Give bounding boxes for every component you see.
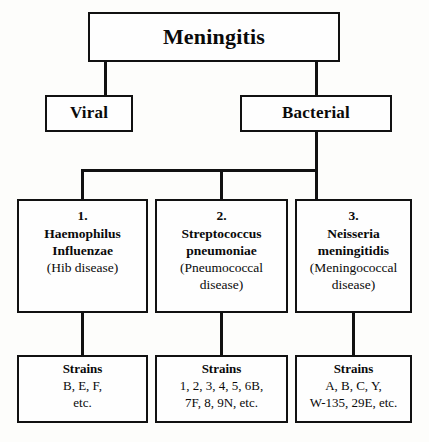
pathogen-3-disease-line1: (Meningococcal bbox=[300, 259, 407, 276]
node-bacterial-label: Bacterial bbox=[242, 103, 390, 123]
pathogen-1-genus: Haemophilus bbox=[22, 225, 143, 242]
node-strains-2: Strains 1, 2, 3, 4, 5, 6B, 7F, 8, 9N, et… bbox=[155, 355, 288, 423]
connector-bacterial-bus bbox=[81, 169, 318, 172]
pathogen-2-species: pneumoniae bbox=[160, 242, 283, 259]
pathogen-1-number: 1. bbox=[22, 207, 143, 224]
pathogen-2-disease-line2: disease) bbox=[160, 276, 283, 293]
pathogen-3-disease-line2: disease) bbox=[300, 276, 407, 293]
connector-bus-to-pathogen-2 bbox=[220, 169, 223, 199]
node-strains-1: Strains B, E, F, etc. bbox=[17, 355, 148, 423]
node-viral-label: Viral bbox=[47, 103, 131, 123]
node-meningitis: Meningitis bbox=[88, 12, 340, 62]
connector-bacterial-stem bbox=[315, 132, 318, 171]
pathogen-3-species: meningitidis bbox=[300, 242, 407, 259]
pathogen-3-number: 3. bbox=[300, 207, 407, 224]
node-strains-3: Strains A, B, C, Y, W-135, 29E, etc. bbox=[295, 355, 412, 423]
pathogen-2-disease-line1: (Pneumococcal bbox=[160, 259, 283, 276]
node-pathogen-2: 2. Streptococcus pneumoniae (Pneumococca… bbox=[155, 199, 288, 313]
node-pathogen-1: 1. Haemophilus Influenzae (Hib disease) bbox=[17, 199, 148, 313]
connector-pathogen-2-to-strains-2 bbox=[220, 313, 223, 355]
pathogen-1-disease-line1: (Hib disease) bbox=[22, 259, 143, 276]
pathogen-1-species: Influenzae bbox=[22, 242, 143, 259]
strains-1-heading: Strains bbox=[19, 361, 146, 377]
connector-pathogen-3-to-strains-3 bbox=[352, 313, 355, 355]
pathogen-3-genus: Neisseria bbox=[300, 225, 407, 242]
connector-pathogen-1-to-strains-1 bbox=[81, 313, 84, 355]
strains-3-heading: Strains bbox=[297, 361, 410, 377]
strains-3-line1: A, B, C, Y, bbox=[297, 378, 410, 394]
strains-2-line2: 7F, 8, 9N, etc. bbox=[157, 395, 286, 411]
node-pathogen-3: 3. Neisseria meningitidis (Meningococcal… bbox=[295, 199, 412, 313]
node-meningitis-label: Meningitis bbox=[90, 24, 338, 50]
connector-bus-to-pathogen-1 bbox=[81, 169, 84, 199]
connector-meningitis-to-viral bbox=[104, 62, 107, 95]
strains-2-line1: 1, 2, 3, 4, 5, 6B, bbox=[157, 378, 286, 394]
pathogen-2-number: 2. bbox=[160, 207, 283, 224]
node-viral: Viral bbox=[45, 95, 133, 132]
connector-bus-to-pathogen-3 bbox=[315, 169, 318, 199]
strains-1-line2: etc. bbox=[19, 395, 146, 411]
strains-2-heading: Strains bbox=[157, 361, 286, 377]
connector-meningitis-to-bacterial bbox=[315, 62, 318, 95]
strains-1-line1: B, E, F, bbox=[19, 378, 146, 394]
meningitis-classification-diagram: Meningitis Viral Bacterial 1. Haemophilu… bbox=[0, 0, 429, 442]
pathogen-2-genus: Streptococcus bbox=[160, 225, 283, 242]
node-bacterial: Bacterial bbox=[240, 95, 392, 132]
strains-3-line2: W-135, 29E, etc. bbox=[297, 395, 410, 411]
